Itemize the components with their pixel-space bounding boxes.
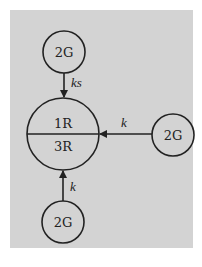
- edge-bottom-label: k: [70, 179, 76, 194]
- node-right: 2G: [152, 114, 194, 156]
- edge-right-label: k: [121, 115, 127, 130]
- edge-bottom-to-center: k: [63, 171, 76, 201]
- node-bottom: 2G: [42, 201, 84, 243]
- edge-top-label: ks: [71, 75, 82, 90]
- node-center-top-label: 1R: [54, 116, 73, 131]
- edge-top-to-center: ks: [64, 73, 82, 97]
- node-center-bottom-label: 3R: [54, 139, 73, 154]
- reaction-diagram: 2G ks 1R 3R 2G k 2G k: [0, 0, 202, 267]
- node-right-label: 2G: [164, 128, 183, 143]
- node-top: 2G: [43, 31, 85, 73]
- edge-right-to-center: k: [100, 115, 152, 134]
- node-top-label: 2G: [55, 45, 74, 60]
- node-center: 1R 3R: [27, 98, 99, 170]
- node-bottom-label: 2G: [54, 215, 73, 230]
